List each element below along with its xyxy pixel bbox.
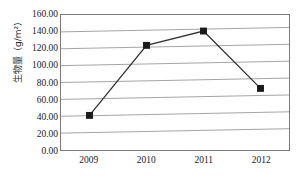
y-axis-tick-label: 0.00	[14, 146, 58, 156]
gridlines	[61, 27, 289, 133]
gridline	[61, 44, 289, 48]
y-axis-tick-labels: 0.0020.0040.0060.0080.00100.00120.00140.…	[14, 0, 58, 186]
line-chart-canvas	[61, 15, 289, 150]
data-point-marker	[200, 28, 207, 35]
data-point-marker	[86, 112, 93, 119]
x-axis-tick-label: 2012	[234, 155, 288, 165]
y-axis-tick-label: 60.00	[14, 95, 58, 105]
y-axis-tick-label: 120.00	[14, 43, 58, 53]
x-axis-tick-label: 2009	[62, 155, 116, 165]
x-axis-tick-label: 2010	[119, 155, 173, 165]
y-axis-tick-label: 100.00	[14, 60, 58, 70]
x-axis-tick-label: 2011	[177, 155, 231, 165]
data-point-markers	[86, 28, 264, 119]
x-axis-tick-labels: 2009201020112012	[60, 155, 290, 179]
plot-area	[60, 14, 290, 151]
gridline	[61, 27, 289, 31]
y-axis-tick-label: 80.00	[14, 78, 58, 88]
y-axis-tick-label: 20.00	[14, 129, 58, 139]
chart-figure: 生物量（g/m²） 0.0020.0040.0060.0080.00100.00…	[0, 0, 297, 186]
gridline	[61, 95, 289, 99]
y-axis-tick-label: 40.00	[14, 112, 58, 122]
gridline	[61, 61, 289, 65]
data-point-marker	[257, 85, 264, 92]
y-axis-tick-label: 140.00	[14, 26, 58, 36]
gridline	[61, 112, 289, 116]
data-point-marker	[143, 42, 150, 49]
data-series-line	[90, 31, 261, 115]
y-axis-tick-label: 160.00	[14, 9, 58, 19]
gridline	[61, 129, 289, 133]
